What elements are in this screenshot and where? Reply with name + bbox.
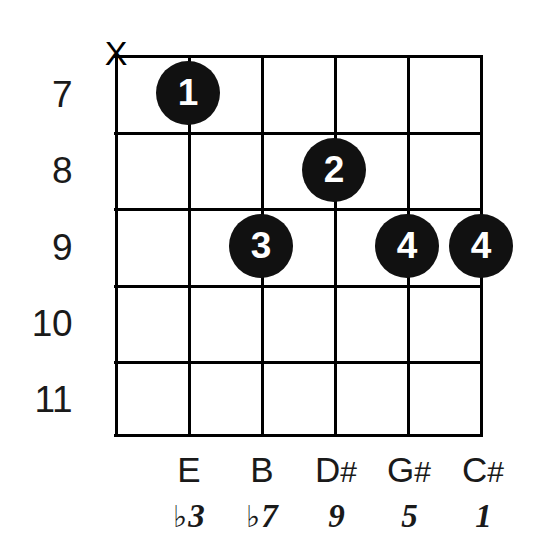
interval-string-6: 1 [438, 500, 528, 533]
interval-degree: 7 [261, 498, 278, 534]
note-letter: D [315, 450, 340, 489]
fret-line-2 [114, 208, 483, 211]
chord-diagram: 7 8 9 10 11 X 1 2 3 4 4 E B D# [0, 0, 541, 557]
note-letter: E [177, 450, 200, 489]
finger-number: 1 [178, 74, 199, 111]
string-line-4 [334, 55, 337, 437]
interval-degree: 9 [328, 498, 345, 534]
interval-degree: 1 [475, 498, 492, 534]
note-letter: G [387, 450, 414, 489]
finger-dot: 1 [156, 61, 220, 125]
interval-accidental: ♭ [246, 500, 260, 533]
interval-degree: 5 [401, 498, 418, 534]
note-accidental: # [414, 455, 431, 488]
note-accidental: # [487, 455, 504, 488]
fret-label-7: 7 [2, 76, 72, 113]
finger-number: 4 [471, 227, 492, 264]
fret-line-5 [114, 434, 483, 437]
finger-dot: 4 [449, 214, 513, 278]
string-line-1 [115, 55, 118, 437]
note-letter: C [462, 450, 487, 489]
interval-accidental: ♭ [173, 500, 187, 533]
fret-label-8: 8 [2, 152, 72, 189]
interval-degree: 3 [188, 498, 205, 534]
fret-label-9: 9 [2, 229, 72, 266]
note-name-string-6: C# [438, 452, 528, 487]
fret-label-11: 11 [2, 381, 72, 418]
finger-dot: 3 [229, 214, 293, 278]
note-letter: B [250, 450, 273, 489]
mute-x-icon: X [105, 36, 128, 70]
finger-number: 3 [251, 227, 272, 264]
finger-dot: 4 [375, 214, 439, 278]
finger-dot: 2 [302, 138, 366, 202]
fret-line-1 [114, 132, 483, 135]
fret-line-3 [114, 285, 483, 288]
fret-line-4 [114, 361, 483, 364]
finger-number: 4 [397, 227, 418, 264]
finger-number: 2 [324, 151, 345, 188]
fret-label-10: 10 [2, 305, 72, 342]
note-accidental: # [340, 455, 357, 488]
nut-line [114, 55, 483, 58]
